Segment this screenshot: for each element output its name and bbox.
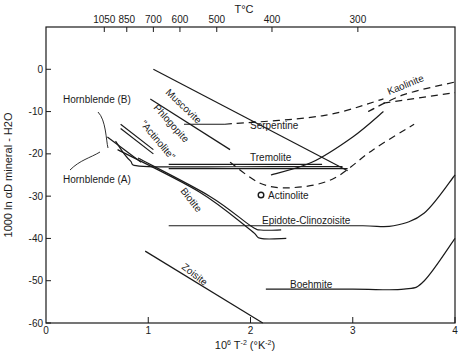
- x-axis-title: 106 T-2 (°K-2): [215, 339, 275, 351]
- label-epidote-clinozoisite: Epidote-Clinozoisite: [262, 215, 351, 226]
- y-tick-label: -50: [29, 275, 44, 286]
- top-tick-label: 400: [264, 14, 281, 25]
- y-tick-label: -10: [29, 106, 44, 117]
- curve-serpentine-extrapolated: [225, 99, 383, 124]
- hornblende-a-leader: [70, 152, 100, 170]
- curve-zoisite: [145, 251, 263, 323]
- y-axis-ticks: 0-10-20-30-40-50-60: [29, 64, 51, 329]
- label-hornblende-b: Hornblende (B): [63, 94, 131, 105]
- top-tick-label: 850: [118, 14, 135, 25]
- label-kaolinite: Kaolinite: [386, 72, 426, 97]
- top-tick-label: 1050: [93, 14, 116, 25]
- label-actinolite: Actinolite: [268, 190, 309, 201]
- actinolite-point-marker: [258, 192, 264, 198]
- x-tick-label: 3: [350, 325, 356, 336]
- label-boehmite: Boehmite: [290, 279, 333, 290]
- isotope-fractionation-chart: T°C 1050850700600500400300 01234 106 T-2…: [0, 0, 464, 356]
- y-tick-label: -30: [29, 191, 44, 202]
- top-tick-label: 300: [350, 14, 367, 25]
- top-tick-label: 500: [208, 14, 225, 25]
- y-tick-label: 0: [37, 64, 43, 75]
- top-tick-label: 700: [145, 14, 162, 25]
- y-tick-label: -60: [29, 318, 44, 329]
- x-tick-label: 4: [452, 325, 458, 336]
- label-hornblende-a: Hornblende (A): [63, 174, 131, 185]
- x-axis-ticks: 01234: [43, 317, 458, 336]
- top-axis-title: T°C: [234, 3, 253, 15]
- x-tick-label: 0: [43, 325, 49, 336]
- label-tremolite: Tremolite: [250, 152, 292, 163]
- label-serpentine: Serpentine: [250, 120, 299, 131]
- hornblende-b-leader: [98, 112, 108, 148]
- top-tick-label: 600: [172, 14, 189, 25]
- x-tick-label: 1: [145, 325, 151, 336]
- y-axis-title: 1000 ln αD mineral - H2O: [2, 112, 14, 237]
- y-tick-label: -20: [29, 148, 44, 159]
- label-biotite: Biotite: [178, 185, 204, 214]
- y-tick-label: -40: [29, 233, 44, 244]
- x-tick-label: 2: [248, 325, 254, 336]
- top-axis-ticks: 1050850700600500400300: [93, 14, 366, 32]
